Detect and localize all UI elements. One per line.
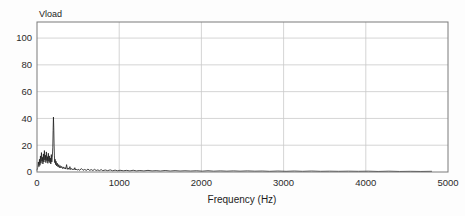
spectrum-chart: 020406080100 010002000300040005000 Vload… — [0, 0, 465, 216]
y-axis-tick-labels: 020406080100 — [16, 32, 32, 177]
plot-title: Vload — [39, 9, 62, 19]
y-tick-label: 0 — [27, 166, 32, 177]
chart-figure: 020406080100 010002000300040005000 Vload… — [0, 0, 465, 216]
x-tick-label: 5000 — [437, 177, 458, 188]
x-axis-tick-labels: 010002000300040005000 — [34, 177, 458, 188]
x-tick-label: 0 — [34, 177, 39, 188]
x-tick-label: 1000 — [109, 177, 130, 188]
x-axis-title: Frequency (Hz) — [208, 194, 277, 205]
y-tick-label: 20 — [21, 140, 32, 151]
y-tick-label: 80 — [21, 59, 32, 70]
y-tick-label: 100 — [16, 32, 32, 43]
x-tick-label: 4000 — [355, 177, 376, 188]
x-tick-label: 2000 — [191, 177, 212, 188]
x-tick-label: 3000 — [273, 177, 294, 188]
y-tick-label: 40 — [21, 113, 32, 124]
plot-area-background — [37, 22, 448, 172]
y-tick-label: 60 — [21, 86, 32, 97]
